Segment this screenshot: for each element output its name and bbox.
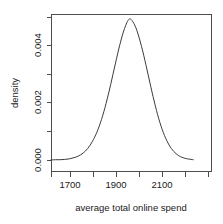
x-axis-title: average total online spend — [75, 202, 186, 213]
x-axis-ticks — [52, 172, 209, 177]
density-curve — [51, 19, 193, 160]
x-tick-label-1900: 1900 — [105, 179, 126, 190]
y-tick-label-0002: 0.002 — [32, 90, 43, 114]
y-axis-title: density — [9, 78, 20, 108]
x-tick-label-2100: 2100 — [151, 179, 172, 190]
y-tick-label-0004: 0.004 — [32, 33, 43, 57]
plot-canvas: 1700 1900 2100 0.000 0.002 0.004 density… — [0, 0, 223, 224]
density-plot-figure: 1700 1900 2100 0.000 0.002 0.004 density… — [0, 0, 223, 224]
x-tick-label-1700: 1700 — [59, 179, 80, 190]
y-tick-label-0000: 0.000 — [32, 148, 43, 172]
plot-frame — [52, 15, 212, 172]
y-axis-ticks — [47, 18, 52, 161]
